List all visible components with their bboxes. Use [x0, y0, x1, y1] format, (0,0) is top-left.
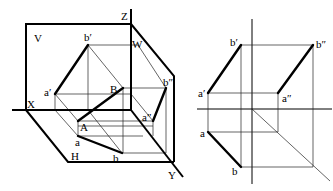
- ortho-label-a-prime: a′: [198, 87, 205, 99]
- ortho-label-b: b: [232, 165, 238, 177]
- label-b-dprime: b″: [163, 76, 173, 88]
- label-a-dprime: a″: [142, 111, 151, 123]
- construction-lines: [55, 45, 166, 153]
- ortho-line-a-prime-b-prime: [208, 45, 241, 93]
- ortho-line-a-dprime-b-dprime: [278, 45, 313, 93]
- line-a-prime-b-prime: [55, 45, 88, 94]
- label-V: V: [34, 32, 42, 44]
- ortho-label-b-dprime: b″: [316, 38, 326, 50]
- ortho-label-a-dprime: a″: [282, 92, 291, 104]
- right-ortho-diagram: b′ b″ a′ a″ a b: [197, 19, 332, 184]
- left-3d-diagram: V Z W b′ a′ B b″ X A a″ a H b Y: [12, 9, 183, 181]
- label-Z: Z: [121, 10, 128, 22]
- label-a-prime: a′: [44, 86, 51, 98]
- label-H: H: [71, 150, 79, 162]
- ortho-label-a: a: [200, 127, 205, 139]
- label-b: b: [113, 152, 119, 164]
- ortho-line-ab: [208, 132, 241, 167]
- label-A: A: [80, 121, 88, 133]
- label-X: X: [27, 98, 35, 110]
- ortho-label-b-prime: b′: [230, 36, 238, 48]
- line-ab-projections: [55, 45, 166, 153]
- label-B: B: [110, 83, 117, 95]
- line-a-dprime-b-dprime: [153, 88, 166, 121]
- projection-figure: V Z W b′ a′ B b″ X A a″ a H b Y b′ b″ a′…: [0, 0, 333, 191]
- y-axis: [131, 110, 183, 177]
- label-b-prime: b′: [84, 31, 92, 43]
- label-W: W: [132, 38, 143, 50]
- 45-degree-line: [252, 109, 330, 181]
- label-a: a: [75, 136, 80, 148]
- label-Y: Y: [168, 169, 176, 181]
